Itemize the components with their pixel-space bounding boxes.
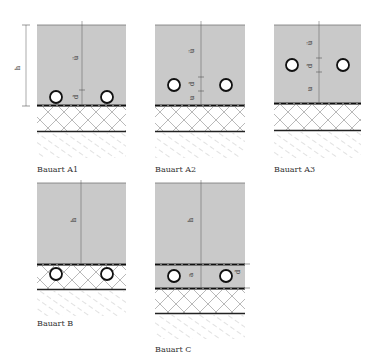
pipe-icon <box>101 268 113 280</box>
caption-bauart-a2: Bauart A2 <box>155 165 196 174</box>
panel-b <box>37 180 126 316</box>
dim-label-ue: ü <box>306 40 314 45</box>
pipe-icon <box>220 79 232 91</box>
ground-hatch <box>37 291 126 316</box>
screed-layer <box>155 25 245 105</box>
ground-hatch <box>37 133 126 158</box>
caption-bauart-a3: Bauart A3 <box>274 165 315 174</box>
dim-label-u: u <box>188 95 196 100</box>
dim-label-ue: ü <box>72 55 80 60</box>
dim-label-d: d <box>234 269 242 274</box>
pipe-icon <box>286 59 298 71</box>
floor-heating-construction-diagram: h ü d ü d u ü d u <box>0 0 379 363</box>
pipe-icon <box>220 270 232 282</box>
dim-label-d: d <box>188 81 196 86</box>
caption-bauart-a1: Bauart A1 <box>37 165 78 174</box>
pipe-icon <box>101 91 113 103</box>
panel-a2 <box>155 21 245 158</box>
pipe-icon <box>337 59 349 71</box>
insulation-layer <box>155 290 245 313</box>
dim-label-d: d <box>306 63 314 68</box>
dim-label-d: d <box>72 94 80 99</box>
dim-label-ue: ü <box>188 48 196 53</box>
pipe-icon <box>50 91 62 103</box>
screed-layer <box>37 25 126 105</box>
panel-a1 <box>22 21 126 158</box>
panel-c <box>155 180 250 339</box>
dim-label-u: u <box>306 86 314 91</box>
ground-hatch <box>274 132 361 158</box>
dim-label-h: h <box>187 217 195 222</box>
screed-layer <box>155 183 245 264</box>
ground-hatch <box>155 133 245 158</box>
caption-bauart-c: Bauart C <box>155 345 191 354</box>
pipe-icon <box>168 270 180 282</box>
insulation-layer <box>37 107 126 131</box>
pipe-icon <box>50 268 62 280</box>
pipe-icon <box>168 79 180 91</box>
screed-layer <box>37 183 126 264</box>
dim-label-h: h <box>70 217 78 222</box>
dim-label-a: a <box>187 273 195 277</box>
insulation-layer <box>274 105 361 130</box>
insulation-layer <box>155 107 245 131</box>
ground-hatch <box>155 315 245 339</box>
panel-a3 <box>274 21 361 158</box>
caption-bauart-b: Bauart B <box>37 319 73 328</box>
dim-label-h: h <box>14 65 22 70</box>
